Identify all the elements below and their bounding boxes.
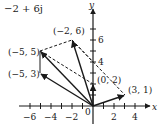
- point-label-neg5-3: (−5, 3): [8, 69, 40, 79]
- y-axis-label: y: [88, 0, 95, 10]
- origin-label: 0: [85, 107, 91, 117]
- point-label-neg5-5: (−5, 5): [8, 47, 40, 57]
- y-tick-label: 4: [98, 57, 104, 67]
- x-tick-label: −6: [23, 112, 37, 122]
- x-tick-label: 2: [111, 112, 117, 122]
- dashed-edges: [40, 40, 125, 95]
- title-expression: −2 + 6j: [4, 3, 43, 14]
- x-tick-label: −4: [44, 112, 58, 122]
- y-tick-label: 6: [98, 35, 104, 45]
- point-label-3-1: (3, 1): [128, 85, 152, 95]
- x-tick-label: 4: [132, 112, 138, 122]
- x-tick-label: −2: [65, 112, 78, 122]
- point-label-neg2-6: (−2, 6): [53, 26, 85, 36]
- complex-plane-diagram: −2 + 6j x y −6 −4 −2 2 4 4 6 0: [0, 0, 159, 130]
- point-label-0-2: (0, 2): [97, 75, 121, 85]
- x-axis-label: x: [152, 102, 157, 112]
- vector-3-1: [93, 96, 124, 107]
